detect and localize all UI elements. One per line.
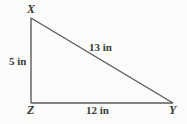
side-length-label-zy: 12 in: [86, 105, 109, 116]
geometry-figure-canvas: X Z Y 5 in 13 in 12 in: [0, 0, 187, 124]
vertex-label-y: Y: [169, 104, 176, 116]
vertex-label-z: Z: [27, 104, 34, 116]
side-length-label-xy: 13 in: [89, 42, 112, 53]
triangle-hypotenuse-xy: [31, 18, 173, 103]
vertex-label-x: X: [27, 3, 35, 15]
side-length-label-xz: 5 in: [9, 56, 26, 67]
